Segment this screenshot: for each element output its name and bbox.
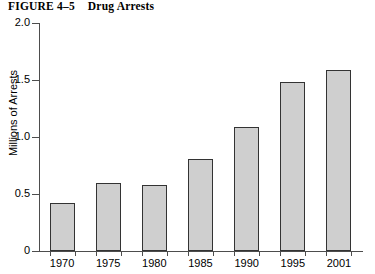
y-axis-title: Millions of Arrests: [7, 43, 19, 183]
x-tick: [50, 252, 51, 256]
y-tick-label: 0.5: [0, 188, 30, 199]
x-tick-label-1990: 1990: [223, 257, 271, 270]
x-tick-label-1985: 1985: [177, 257, 225, 270]
y-tick-label: 1.0: [0, 131, 30, 142]
y-tick-2.0: [32, 23, 39, 24]
x-tick: [188, 252, 189, 256]
x-tick-label-2001: 2001: [315, 257, 363, 270]
x-tick: [259, 252, 260, 256]
bar-1995: [280, 82, 305, 251]
bar-1990: [234, 127, 259, 251]
x-tick: [326, 252, 327, 256]
bar-1975: [96, 183, 121, 251]
bar-1980: [142, 185, 167, 251]
x-tick: [142, 252, 143, 256]
y-axis-line: [39, 23, 40, 252]
bar-2001: [326, 70, 351, 251]
y-tick-1.5: [32, 80, 39, 81]
y-tick-0: [32, 251, 39, 252]
y-tick-1.0: [32, 137, 39, 138]
x-tick: [280, 252, 281, 256]
x-axis-line: [39, 251, 363, 252]
x-tick: [96, 252, 97, 256]
x-tick: [121, 252, 122, 256]
x-tick: [213, 252, 214, 256]
y-tick-label: 2.0: [0, 17, 30, 28]
x-tick-label-1975: 1975: [84, 257, 132, 270]
x-tick-label-1995: 1995: [269, 257, 317, 270]
y-tick-label: 0: [0, 245, 30, 256]
x-tick-label-1980: 1980: [130, 257, 178, 270]
bar-1970: [50, 203, 75, 251]
x-tick: [234, 252, 235, 256]
bar-chart: Millions of Arrests 00.51.01.52.0 197019…: [0, 0, 375, 274]
y-tick-label: 1.5: [0, 74, 30, 85]
x-tick: [351, 252, 352, 256]
x-tick: [167, 252, 168, 256]
y-tick-0.5: [32, 194, 39, 195]
bar-1985: [188, 159, 213, 251]
x-tick: [75, 252, 76, 256]
x-tick: [305, 252, 306, 256]
x-tick-label-1970: 1970: [38, 257, 86, 270]
